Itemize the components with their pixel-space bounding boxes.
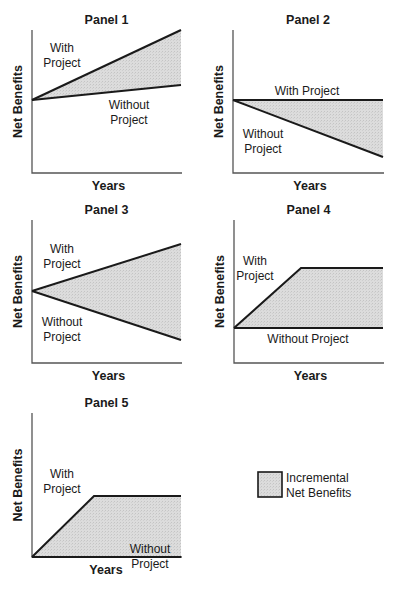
incremental-net-benefits-figure: Panel 1YearsNet BenefitsWithProjectWitho… — [0, 0, 400, 590]
series-annotation: Without — [243, 127, 284, 141]
x-axis-label: Years — [89, 563, 122, 577]
panel-4: Panel 4YearsNet BenefitsWithProjectWitho… — [213, 203, 384, 383]
series-annotation: With — [50, 41, 74, 55]
series-annotation: With — [50, 242, 74, 256]
panel-1: Panel 1YearsNet BenefitsWithProjectWitho… — [11, 13, 182, 193]
panel-title: Panel 1 — [85, 13, 129, 27]
panel-3: Panel 3YearsNet BenefitsWithProjectWitho… — [11, 203, 182, 383]
legend-swatch — [258, 472, 282, 497]
series-annotation: With — [243, 254, 267, 268]
panel-2: Panel 2YearsNet BenefitsWith ProjectWith… — [212, 13, 384, 193]
x-axis-label: Years — [92, 179, 125, 193]
panel-title: Panel 5 — [85, 396, 129, 410]
legend-label-line2: Net Benefits — [286, 486, 351, 500]
series-annotation: Project — [244, 142, 282, 156]
panel-title: Panel 3 — [85, 203, 129, 217]
legend-label-line1: Incremental — [286, 471, 349, 485]
series-annotation: Project — [43, 482, 81, 496]
y-axis-label: Net Benefits — [212, 65, 226, 138]
y-axis-label: Net Benefits — [11, 448, 25, 521]
series-annotation: Project — [43, 56, 81, 70]
series-annotation: Without — [109, 98, 150, 112]
panel-title: Panel 2 — [286, 13, 330, 27]
series-annotation: Project — [43, 257, 81, 271]
y-axis-label: Net Benefits — [213, 255, 227, 328]
series-annotation: With Project — [275, 84, 340, 98]
x-axis-label: Years — [293, 179, 326, 193]
panel-title: Panel 4 — [287, 203, 331, 217]
legend: Incremental Net Benefits — [258, 471, 351, 500]
y-axis-label: Net Benefits — [11, 65, 25, 138]
series-annotation: Without — [130, 542, 171, 556]
series-annotation: With — [50, 467, 74, 481]
series-annotation: Without — [42, 315, 83, 329]
x-axis-label: Years — [92, 369, 125, 383]
series-annotation: Project — [110, 113, 148, 127]
series-annotation: Without Project — [267, 332, 349, 346]
x-axis-label: Years — [294, 369, 327, 383]
panel-5: Panel 5YearsNet BenefitsWithProjectWitho… — [11, 396, 182, 577]
y-axis-label: Net Benefits — [11, 255, 25, 328]
series-annotation: Project — [43, 330, 81, 344]
series-annotation: Project — [131, 557, 169, 571]
series-annotation: Project — [236, 269, 274, 283]
